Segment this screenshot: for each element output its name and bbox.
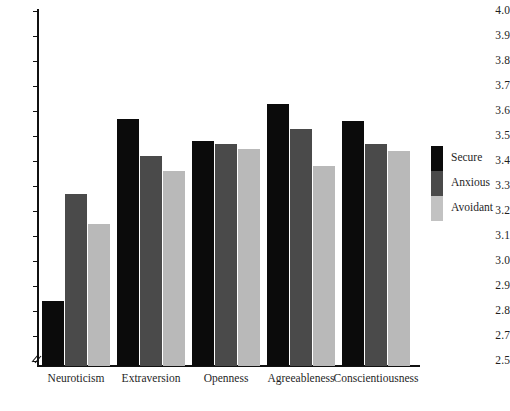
x-label-conscientiousness: Conscientiousness <box>334 372 419 385</box>
legend-label-anxious: Anxious <box>451 177 490 189</box>
bar-chart-figure: 4.03.93.83.73.63.53.43.33.23.13.02.92.82… <box>0 0 510 411</box>
bar-extraversion-secure <box>117 119 139 367</box>
bar-extraversion-avoidant <box>163 171 185 366</box>
y-tick-label: 3.8 <box>476 55 510 67</box>
legend-label-secure: Secure <box>451 152 482 164</box>
bar-neuroticism-avoidant <box>88 224 110 367</box>
x-label-neuroticism: Neuroticism <box>48 372 105 385</box>
legend-swatch-avoidant <box>431 196 443 221</box>
bar-agreeableness-avoidant <box>313 166 335 366</box>
bar-conscientiousness-secure <box>342 121 364 366</box>
bar-neuroticism-secure <box>42 301 64 366</box>
bar-openness-anxious <box>215 144 237 367</box>
y-tick-label: 4.0 <box>476 5 510 17</box>
bar-agreeableness-anxious <box>290 129 312 367</box>
y-tick-label: 2.5 <box>476 355 510 367</box>
bar-openness-secure <box>192 141 214 366</box>
legend-swatch-secure <box>431 146 443 171</box>
y-tick-label: 3.0 <box>476 255 510 267</box>
y-tick-label: 3.9 <box>476 30 510 42</box>
y-tick-label: 3.1 <box>476 230 510 242</box>
y-tick-label: 2.8 <box>476 305 510 317</box>
bar-conscientiousness-anxious <box>365 144 387 367</box>
x-label-agreeableness: Agreeableness <box>267 372 334 385</box>
y-tick-label: 3.6 <box>476 105 510 117</box>
x-label-extraversion: Extraversion <box>122 372 181 385</box>
legend-label-avoidant: Avoidant <box>451 202 493 214</box>
bar-conscientiousness-avoidant <box>388 151 410 366</box>
y-tick-label: 3.7 <box>476 80 510 92</box>
bar-agreeableness-secure <box>267 104 289 367</box>
y-tick-label: 3.5 <box>476 130 510 142</box>
cropped-title-remnant <box>0 0 510 6</box>
plot-area <box>38 11 420 366</box>
y-tick-label: 2.7 <box>476 330 510 342</box>
legend-swatch-anxious <box>431 171 443 196</box>
x-label-openness: Openness <box>204 372 249 385</box>
y-tick-label: 2.9 <box>476 280 510 292</box>
bar-extraversion-anxious <box>140 156 162 366</box>
legend-color-swatch <box>431 146 443 221</box>
bar-neuroticism-anxious <box>65 194 87 367</box>
bar-openness-avoidant <box>238 149 260 367</box>
